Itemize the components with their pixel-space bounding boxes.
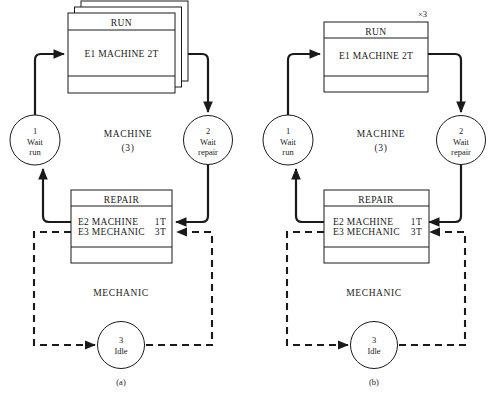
place-a-2-label-line2: repair: [198, 147, 218, 157]
place-b-2-label-line1: Wait: [453, 137, 469, 147]
run-box-b-header: RUN: [365, 27, 386, 37]
repair-box-a-header: REPAIR: [104, 195, 140, 205]
place-b-2-number: 2: [459, 126, 463, 136]
repair-box-a-line1-right: 1T: [155, 217, 166, 227]
arrow-b-wait-repair-to-repair: [429, 165, 461, 222]
region-label-a-mechanic: MECHANIC: [93, 288, 148, 298]
panel-b: ×3 RUN E1 MACHINE 2T REPAIR E2 MACHINE 1…: [263, 9, 486, 387]
run-box-a-header: RUN: [111, 18, 132, 28]
repair-box-a-line1-left: E2 MACHINE: [78, 217, 138, 227]
repair-box-a-line2-right: 3T: [155, 227, 166, 237]
place-a-3-label-line1: Idle: [114, 346, 127, 356]
arrow-b-run-to-wait-repair: [428, 54, 461, 112]
place-a-1-label-line1: Wait: [27, 137, 43, 147]
region-label-b-machine: MACHINE: [357, 129, 406, 139]
caption-b: (b): [369, 377, 379, 387]
panel-a: RUN E1 MACHINE 2T REPAIR E2 MACHINE 1T E…: [10, 1, 233, 387]
place-a-1-label-line2: run: [29, 147, 41, 157]
run-box-b-body: E1 MACHINE 2T: [339, 51, 413, 61]
place-b-1-number: 1: [286, 126, 290, 136]
place-b-2-label-line2: repair: [451, 147, 471, 157]
arrow-b-wait-run-to-run: [288, 54, 320, 116]
arrow-a-repair-to-wait-run: [43, 169, 71, 222]
run-box-a-body: E1 MACHINE 2T: [84, 49, 158, 59]
repair-box-b-line2-right: 3T: [411, 227, 422, 237]
place-a-3-number: 3: [119, 335, 123, 345]
region-label-a-machine-count: (3): [122, 143, 135, 154]
repair-box-b-line1-right: 1T: [411, 217, 422, 227]
region-label-b-mechanic: MECHANIC: [346, 288, 401, 298]
place-b-1-label-line2: run: [282, 147, 294, 157]
place-b-3-label-line1: Idle: [367, 346, 380, 356]
place-b-3-number: 3: [372, 335, 376, 345]
repair-box-b-line2-left: E3 MECHANIC: [333, 227, 400, 237]
place-a-2-number: 2: [206, 126, 210, 136]
region-label-a-machine: MACHINE: [104, 129, 153, 139]
repair-box-a-line2-left: E3 MECHANIC: [78, 227, 145, 237]
arrow-a-wait-repair-to-repair: [176, 165, 208, 222]
region-label-b-machine-count: (3): [375, 143, 388, 154]
diagram-svg: RUN E1 MACHINE 2T REPAIR E2 MACHINE 1T E…: [0, 0, 494, 396]
place-b-1-label-line1: Wait: [280, 137, 296, 147]
caption-a: (a): [116, 377, 126, 387]
arrow-b-repair-to-wait-run: [296, 169, 324, 222]
arrow-a-wait-run-to-run: [35, 54, 64, 116]
repair-box-b-header: REPAIR: [358, 195, 394, 205]
repair-box-b-line1-left: E2 MACHINE: [333, 217, 393, 227]
place-a-2-label-line1: Wait: [200, 137, 216, 147]
run-box-b-multiplicity-label: ×3: [418, 9, 427, 19]
place-a-1-number: 1: [33, 126, 37, 136]
figure-container: RUN E1 MACHINE 2T REPAIR E2 MACHINE 1T E…: [0, 0, 494, 396]
